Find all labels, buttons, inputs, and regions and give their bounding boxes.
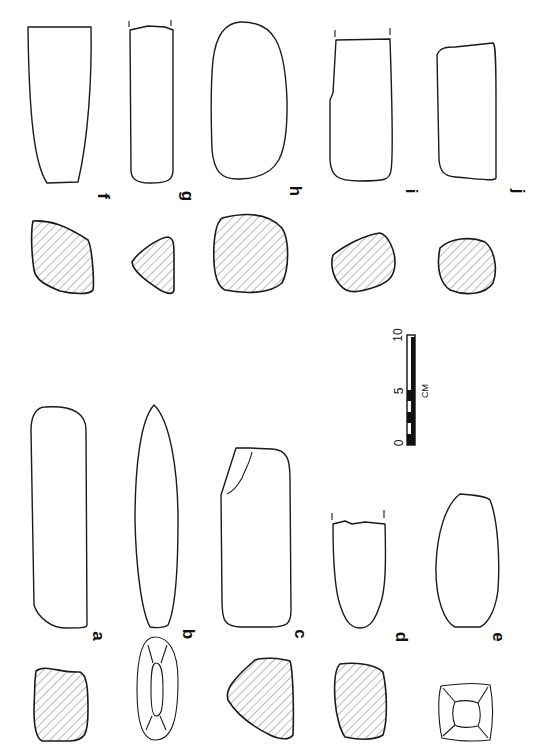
- artifact-a-profile: [31, 407, 87, 628]
- artifact-b-profile: [135, 405, 178, 628]
- artifact-h-cross-section: [214, 215, 288, 293]
- scale-unit: CM: [418, 380, 432, 402]
- scale-tick-5: 5: [392, 384, 406, 398]
- label-i: i: [401, 181, 421, 201]
- artifact-j-profile: [437, 43, 496, 180]
- label-b: b: [178, 624, 198, 644]
- artifact-i-cross-section: [332, 233, 395, 292]
- artifact-c-cross-section: [227, 658, 293, 739]
- artifact-e-profile: [436, 494, 499, 627]
- artifact-f-profile: [28, 27, 91, 183]
- artifact-figure: [0, 0, 536, 751]
- artifact-f-cross-section: [32, 221, 94, 294]
- scale-bar: [407, 335, 415, 445]
- artifact-h-profile: [211, 22, 287, 179]
- label-g: g: [177, 186, 197, 206]
- scale-tick-0: 0: [392, 436, 406, 450]
- label-f: f: [93, 186, 113, 206]
- label-e: e: [488, 627, 508, 647]
- artifact-i-profile: [330, 28, 392, 181]
- label-j: j: [508, 181, 528, 201]
- label-a: a: [88, 626, 108, 646]
- artifact-d-profile: [332, 510, 385, 628]
- artifact-g-cross-section: [132, 237, 174, 293]
- artifact-a-cross-section: [34, 668, 88, 741]
- artifact-g-profile: [129, 20, 173, 183]
- artifact-j-cross-section: [438, 239, 495, 294]
- label-d: d: [391, 627, 411, 647]
- artifact-c-profile: [221, 448, 291, 627]
- scale-tick-10: 10: [391, 325, 405, 345]
- label-h: h: [285, 181, 305, 201]
- artifact-d-cross-section: [335, 663, 387, 739]
- artifact-b-cross-section: [137, 637, 178, 740]
- label-c: c: [290, 624, 310, 644]
- artifact-e-cross-section: [439, 683, 493, 741]
